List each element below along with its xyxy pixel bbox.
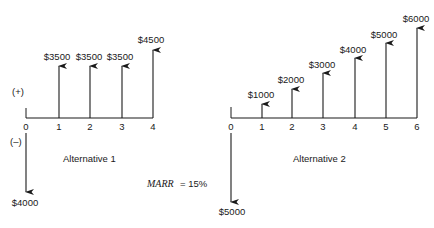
cash-flow-label-2: $3500 bbox=[76, 51, 102, 62]
cash-flow-label-1: $3500 bbox=[44, 51, 70, 62]
cash-flow-label-0: $4000 bbox=[12, 197, 38, 208]
period-label-6: 6 bbox=[414, 121, 419, 132]
cash-flow-label-2: $2000 bbox=[278, 74, 304, 85]
cash-flow-label-4: $4500 bbox=[138, 34, 164, 45]
cash-flow-label-4: $4000 bbox=[340, 44, 366, 55]
cash-flow-label-1: $1000 bbox=[248, 89, 274, 100]
cash-flow-label-0: $5000 bbox=[219, 206, 245, 217]
period-label-1: 1 bbox=[56, 121, 61, 132]
period-label-2: 2 bbox=[289, 121, 294, 132]
negative-sign-label: (–) bbox=[10, 136, 22, 147]
positive-sign-label: (+) bbox=[12, 86, 24, 97]
period-label-3: 3 bbox=[320, 121, 325, 132]
cash-flow-label-3: $3500 bbox=[107, 51, 133, 62]
period-label-1: 1 bbox=[259, 121, 264, 132]
marr-note: MARR = 15% bbox=[146, 178, 208, 189]
period-label-3: 3 bbox=[119, 121, 124, 132]
marr-label: MARR bbox=[146, 178, 174, 189]
cash-flow-diagram: (+) (–) 0 1 2 3 4 $3500 $3500 $3500 $450… bbox=[0, 0, 434, 228]
period-label-4: 4 bbox=[352, 121, 357, 132]
period-label-2: 2 bbox=[87, 121, 92, 132]
alternative-2-caption: Alternative 2 bbox=[293, 153, 346, 164]
marr-value: = 15% bbox=[180, 178, 208, 189]
cash-flow-label-6: $6000 bbox=[403, 13, 429, 24]
period-label-0: 0 bbox=[228, 121, 233, 132]
period-label-5: 5 bbox=[383, 121, 388, 132]
cash-flow-label-3: $3000 bbox=[309, 59, 335, 70]
alternative-1-caption: Alternative 1 bbox=[63, 153, 116, 164]
period-label-0: 0 bbox=[23, 121, 28, 132]
alternative-2-diagram: 0 1 2 3 4 5 6 $1000 $2000 $3000 $4000 $5… bbox=[219, 13, 429, 217]
alternative-1-diagram: (+) (–) 0 1 2 3 4 $3500 $3500 $3500 $450… bbox=[10, 34, 164, 208]
period-label-4: 4 bbox=[150, 121, 155, 132]
cash-flow-label-5: $5000 bbox=[371, 29, 397, 40]
